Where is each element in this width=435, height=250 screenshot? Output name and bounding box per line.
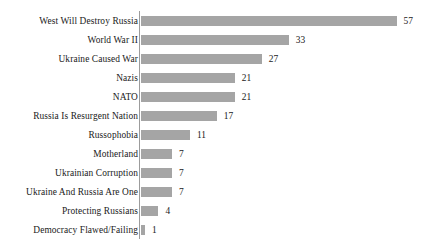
bar-chart: West Will Destroy Russia 57 World War II… [0, 0, 435, 250]
bar[interactable] [141, 111, 217, 121]
bar-value-label: 1 [152, 225, 157, 235]
bar-value-label: 7 [179, 149, 184, 159]
category-label: NATO [2, 92, 138, 102]
bar-value-label: 4 [165, 206, 170, 216]
bar-group: 57 [141, 16, 413, 26]
bar-group: 11 [141, 130, 206, 140]
bar-group: 4 [141, 206, 171, 216]
category-label: West Will Destroy Russia [2, 16, 138, 26]
category-label: Russia Is Resurgent Nation [2, 111, 138, 121]
bar-group: 17 [141, 111, 234, 121]
bar-row: Ukrainian Corruption 7 [0, 163, 435, 182]
bar[interactable] [141, 54, 262, 64]
bar-row: Nazis 21 [0, 68, 435, 87]
bar-group: 21 [141, 73, 252, 83]
bar[interactable] [141, 187, 172, 197]
bar[interactable] [141, 73, 235, 83]
category-label: Ukraine Caused War [2, 54, 138, 64]
bar[interactable] [141, 92, 235, 102]
bar-group: 7 [141, 187, 184, 197]
bar-value-label: 11 [197, 130, 206, 140]
bar[interactable] [141, 225, 145, 235]
bar-value-label: 21 [242, 92, 251, 102]
bar-group: 27 [141, 54, 279, 64]
bar-value-label: 17 [224, 111, 233, 121]
bar-value-label: 27 [269, 54, 278, 64]
category-label: Democracy Flawed/Failing [2, 225, 138, 235]
bar-row: Ukraine And Russia Are One 7 [0, 182, 435, 201]
bar[interactable] [141, 35, 289, 45]
bar-row: Ukraine Caused War 27 [0, 49, 435, 68]
plot-area: West Will Destroy Russia 57 World War II… [0, 11, 435, 241]
bar-value-label: 7 [179, 168, 184, 178]
bar-group: 21 [141, 92, 252, 102]
category-label: Ukraine And Russia Are One [2, 187, 138, 197]
bar-group: 7 [141, 149, 184, 159]
category-label: Motherland [2, 149, 138, 159]
bar[interactable] [141, 206, 159, 216]
bar-row: Protecting Russians 4 [0, 201, 435, 220]
bar-value-label: 21 [242, 73, 251, 83]
bar[interactable] [141, 130, 190, 140]
bar-row: Democracy Flawed/Failing 1 [0, 220, 435, 239]
category-label: Protecting Russians [2, 206, 138, 216]
bar-group: 1 [141, 225, 157, 235]
bar-row: West Will Destroy Russia 57 [0, 11, 435, 30]
bar-row: Russia Is Resurgent Nation 17 [0, 106, 435, 125]
bar[interactable] [141, 16, 397, 26]
bar-value-label: 7 [179, 187, 184, 197]
bar-value-label: 57 [404, 16, 413, 26]
bar-row: Russophobia 11 [0, 125, 435, 144]
bar-group: 33 [141, 35, 306, 45]
category-label: Ukrainian Corruption [2, 168, 138, 178]
category-label: Nazis [2, 73, 138, 83]
bar-row: World War II 33 [0, 30, 435, 49]
category-label: World War II [2, 35, 138, 45]
bar[interactable] [141, 149, 172, 159]
category-label: Russophobia [2, 130, 138, 140]
bar[interactable] [141, 168, 172, 178]
bar-row: NATO 21 [0, 87, 435, 106]
bar-group: 7 [141, 168, 184, 178]
bar-row: Motherland 7 [0, 144, 435, 163]
bar-value-label: 33 [296, 35, 305, 45]
